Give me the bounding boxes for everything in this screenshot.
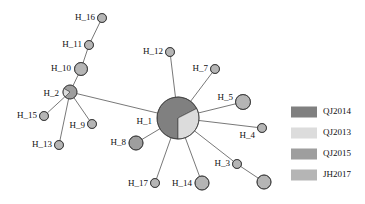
node-label-h_8: H_8 xyxy=(111,137,127,147)
node-label-h_3: H_3 xyxy=(215,158,231,168)
node-labels-layer: H_1H_2H_3H_4H_5H_7H_8H_9H_10H_11H_12H_13… xyxy=(17,12,255,188)
edge-h_1-h_5 xyxy=(198,104,235,113)
node-h_17[interactable] xyxy=(151,179,160,188)
haplotype-network-figure: H_1H_2H_3H_4H_5H_7H_8H_9H_10H_11H_12H_13… xyxy=(0,0,365,204)
node-label-h_10: H_10 xyxy=(51,63,71,73)
edge-h_3-h_3b xyxy=(241,167,258,179)
edge-h_1-h_8 xyxy=(142,129,160,140)
edge-h_2-h_13 xyxy=(60,99,69,141)
node-h_4[interactable] xyxy=(258,124,267,133)
node-h_11[interactable] xyxy=(85,41,94,50)
edge-h_16-h_11 xyxy=(91,22,100,41)
edge-h_1-h_14 xyxy=(185,138,199,177)
legend: QJ2014QJ2013QJ2015JH2017 xyxy=(291,106,352,180)
node-label-h_1: H_1 xyxy=(137,116,153,126)
edge-h_1-h_7 xyxy=(191,73,213,102)
node-h_1[interactable] xyxy=(157,97,199,139)
node-h_9[interactable] xyxy=(88,120,97,129)
node-label-h_5: H_5 xyxy=(218,92,234,102)
node-label-h_2: H_2 xyxy=(44,88,60,98)
edge-h_1-h_3 xyxy=(195,131,234,161)
legend-label-jh2017: JH2017 xyxy=(323,169,352,179)
node-h_2[interactable] xyxy=(63,85,77,99)
network-canvas: H_1H_2H_3H_4H_5H_7H_8H_9H_10H_11H_12H_13… xyxy=(0,0,365,204)
node-label-h_7: H_7 xyxy=(193,63,209,73)
edge-h_1-h_12 xyxy=(171,56,176,97)
node-label-h_16: H_16 xyxy=(75,12,95,22)
legend-swatch-jh2017 xyxy=(291,170,317,181)
node-h_3b[interactable] xyxy=(257,175,271,189)
edge-h_1-h_17 xyxy=(157,138,171,179)
node-label-h_17: H_17 xyxy=(128,178,148,188)
edge-h_10-h_2 xyxy=(73,75,78,86)
legend-swatch-qj2015 xyxy=(291,149,317,160)
node-label-h_14: H_14 xyxy=(172,178,192,188)
node-h_8[interactable] xyxy=(129,136,143,150)
node-label-h_12: H_12 xyxy=(143,46,163,56)
edge-h_11-h_10 xyxy=(83,49,88,63)
node-label-h_11: H_11 xyxy=(62,39,82,49)
edge-h_2-h_15 xyxy=(47,97,65,113)
node-h_12[interactable] xyxy=(166,48,175,57)
edge-h_1-h_4 xyxy=(199,120,258,127)
node-h_13[interactable] xyxy=(55,141,64,150)
node-h_16[interactable] xyxy=(98,14,107,23)
node-label-h_13: H_13 xyxy=(32,139,52,149)
node-label-h_9: H_9 xyxy=(70,120,86,130)
legend-label-qj2013: QJ2013 xyxy=(323,127,352,137)
legend-label-qj2014: QJ2014 xyxy=(323,106,352,116)
edge-h_2-h_9 xyxy=(74,98,89,121)
node-h_10[interactable] xyxy=(75,63,88,76)
legend-swatch-qj2013 xyxy=(291,128,317,139)
node-h_15[interactable] xyxy=(40,112,49,121)
legend-label-qj2015: QJ2015 xyxy=(323,148,352,158)
node-label-h_15: H_15 xyxy=(17,110,37,120)
node-label-h_4: H_4 xyxy=(240,130,256,140)
node-h_14[interactable] xyxy=(195,176,209,190)
node-h_5[interactable] xyxy=(236,95,251,110)
node-h_3[interactable] xyxy=(233,160,242,169)
node-h_7[interactable] xyxy=(211,65,220,74)
legend-swatch-qj2014 xyxy=(291,107,317,118)
edge-h_2-h_1 xyxy=(77,94,158,113)
